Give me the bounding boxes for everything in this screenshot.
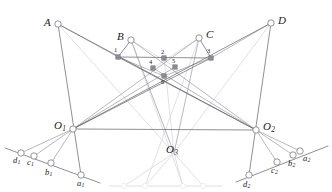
figure-canvas bbox=[0, 0, 332, 192]
label-intersection-5: 5 bbox=[172, 58, 175, 65]
label-point-a2: a2 bbox=[303, 154, 310, 164]
segment-O1-to-O2 bbox=[73, 129, 256, 130]
label-b2-base: b bbox=[288, 158, 292, 168]
node-p3 bbox=[209, 56, 213, 60]
label-center-o2: O2 bbox=[263, 121, 275, 133]
label-point-c: C bbox=[206, 29, 213, 40]
node-group bbox=[18, 20, 303, 189]
label-d1-subscript: 1 bbox=[18, 159, 21, 165]
segment-O1-to-C bbox=[73, 38, 199, 129]
label-intersection-1: 1 bbox=[114, 47, 117, 54]
label-a2-subscript: 2 bbox=[308, 157, 311, 163]
segment-O1-to-c1 bbox=[34, 129, 73, 156]
node-C bbox=[196, 35, 202, 41]
node-p1 bbox=[116, 55, 120, 59]
label-d2-subscript: 2 bbox=[248, 183, 251, 189]
label-c1-subscript: 1 bbox=[31, 161, 34, 167]
segment-p2-to-O3 bbox=[164, 58, 174, 153]
faint-line-group bbox=[58, 23, 271, 186]
segment-B-to-p5 bbox=[131, 40, 175, 67]
label-a2-base: a bbox=[303, 153, 307, 163]
segment-C-to-p4 bbox=[153, 38, 199, 68]
node-f1 bbox=[121, 183, 126, 188]
node-f4 bbox=[200, 183, 205, 188]
label-o1-subscript: 1 bbox=[62, 124, 66, 133]
node-D bbox=[268, 20, 274, 26]
label-b2-subscript: 2 bbox=[293, 162, 296, 168]
node-p2 bbox=[162, 56, 166, 60]
label-a1-base: a bbox=[77, 178, 81, 188]
segment-O2-to-b2 bbox=[256, 130, 293, 155]
segment-D-to-d2 bbox=[249, 23, 271, 175]
label-point-b1: b1 bbox=[45, 168, 52, 178]
node-d2 bbox=[246, 172, 252, 178]
label-point-c2: c2 bbox=[271, 166, 278, 176]
node-f3 bbox=[180, 183, 185, 188]
label-intersection-6: 6 bbox=[161, 79, 164, 86]
node-p5 bbox=[173, 65, 177, 69]
node-A bbox=[55, 21, 61, 27]
label-point-d2: d2 bbox=[243, 180, 250, 190]
node-p4 bbox=[151, 66, 155, 70]
label-intersection-2: 2 bbox=[161, 49, 164, 56]
label-d1-base: d bbox=[13, 155, 17, 165]
segment-D-to-p3 bbox=[211, 23, 271, 58]
label-center-o1: O1 bbox=[54, 120, 66, 132]
label-intersection-4: 4 bbox=[149, 59, 152, 66]
label-o1-base: O bbox=[54, 119, 62, 131]
label-a1-subscript: 1 bbox=[82, 182, 85, 188]
label-c2-subscript: 2 bbox=[275, 169, 278, 175]
label-b1-base: b bbox=[45, 167, 49, 177]
label-point-a1: a1 bbox=[77, 179, 84, 189]
label-point-b2: b2 bbox=[288, 159, 295, 169]
label-b1-subscript: 1 bbox=[50, 171, 53, 177]
label-point-c1: c1 bbox=[27, 158, 34, 168]
segment-A-to-a1 bbox=[58, 24, 81, 175]
label-intersection-3: 3 bbox=[207, 48, 210, 55]
label-o2-subscript: 2 bbox=[271, 125, 275, 134]
segment-A-to-O3 bbox=[58, 24, 174, 153]
node-O1 bbox=[70, 126, 76, 132]
geometry-figure: A B C D O1 O2 O3 a1 b1 c1 d1 a2 b2 c2 d2… bbox=[0, 0, 332, 192]
label-o2-base: O bbox=[263, 120, 271, 132]
label-o3-base: O bbox=[166, 143, 174, 155]
node-O2 bbox=[253, 127, 259, 133]
node-f2 bbox=[142, 183, 147, 188]
node-b1 bbox=[48, 160, 54, 166]
label-point-d: D bbox=[278, 15, 286, 26]
label-o3-subscript: 3 bbox=[174, 148, 178, 157]
label-d2-base: d bbox=[243, 179, 247, 189]
node-B bbox=[128, 37, 134, 43]
label-center-o3: O3 bbox=[166, 144, 178, 156]
label-point-b: B bbox=[117, 31, 124, 42]
label-point-d1: d1 bbox=[13, 156, 20, 166]
mid-line-group bbox=[21, 23, 300, 163]
label-point-a: A bbox=[44, 17, 51, 28]
